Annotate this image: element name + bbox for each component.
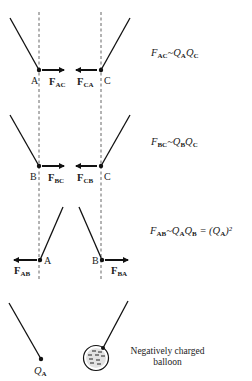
balloon-caption: Negatively charged balloon <box>115 346 220 368</box>
point-label-c-row2: C <box>104 172 111 182</box>
force-label-ab: FAB <box>14 266 30 278</box>
force-label-ca: FCA <box>77 77 94 89</box>
point-label-a-row1: A <box>31 76 38 86</box>
balloon-caption-line2: balloon <box>115 357 220 368</box>
point-label-a-row3: A <box>44 256 51 266</box>
row-4-charge-and-balloon <box>9 301 128 371</box>
force-label-ba: FBA <box>111 266 127 278</box>
charge-qa-dot <box>39 357 43 361</box>
force-label-bc: FBC <box>48 173 64 185</box>
force-label-ac: FAC <box>49 77 66 89</box>
point-label-b-row2: B <box>30 172 37 182</box>
point-label-c-row1: C <box>104 76 111 86</box>
diagram-canvas <box>0 0 252 381</box>
row-3-pendulums <box>14 207 128 262</box>
point-label-b-row3: B <box>92 256 99 266</box>
row-2-pendulums <box>10 115 130 168</box>
force-label-cb: FCB <box>77 173 93 185</box>
equation-ac: FAC~QAQC <box>151 48 199 60</box>
equation-ab: FAB~QAQB = (QA)² <box>150 226 232 238</box>
row-1-pendulums <box>10 18 130 72</box>
equation-bc: FBC~QBQC <box>151 137 198 149</box>
balloon-caption-line1: Negatively charged <box>115 346 220 357</box>
charge-label-qa: QA <box>34 366 47 378</box>
